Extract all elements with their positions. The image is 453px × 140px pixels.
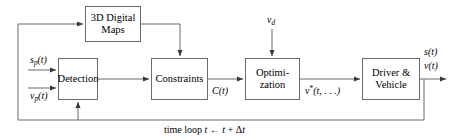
block-detection[interactable]: Detection xyxy=(58,58,98,100)
block-optimization[interactable]: Optimi- zation xyxy=(245,58,300,100)
block-driver-vehicle-label: Driver & Vehicle xyxy=(372,67,410,92)
block-detection-label: Detection xyxy=(58,73,99,85)
label-time-loop: time loop t ← t + Δt xyxy=(164,124,245,135)
label-ct-constraints-output: C(t) xyxy=(212,85,228,96)
block-3d-digital-maps-label: 3D Digital Maps xyxy=(91,12,136,37)
label-optimal-speed: v*(t, . . .) xyxy=(305,85,340,96)
label-output-v: v(t) xyxy=(424,60,438,71)
block-optimization-label: Optimi- zation xyxy=(256,67,289,92)
block-diagram: 3D Digital Maps Detection Constraints Op… xyxy=(0,0,453,140)
block-3d-digital-maps[interactable]: 3D Digital Maps xyxy=(85,6,141,42)
block-constraints[interactable]: Constraints xyxy=(151,58,208,100)
label-vd-desired-speed: vd xyxy=(267,14,275,25)
label-vp-input: vp(t) xyxy=(30,90,48,101)
block-constraints-label: Constraints xyxy=(156,73,204,85)
block-driver-vehicle[interactable]: Driver & Vehicle xyxy=(362,58,420,100)
label-sp-input: sp(t) xyxy=(30,54,47,65)
label-output-s: s(t) xyxy=(424,46,437,57)
wire-maps-constraints xyxy=(141,24,180,56)
